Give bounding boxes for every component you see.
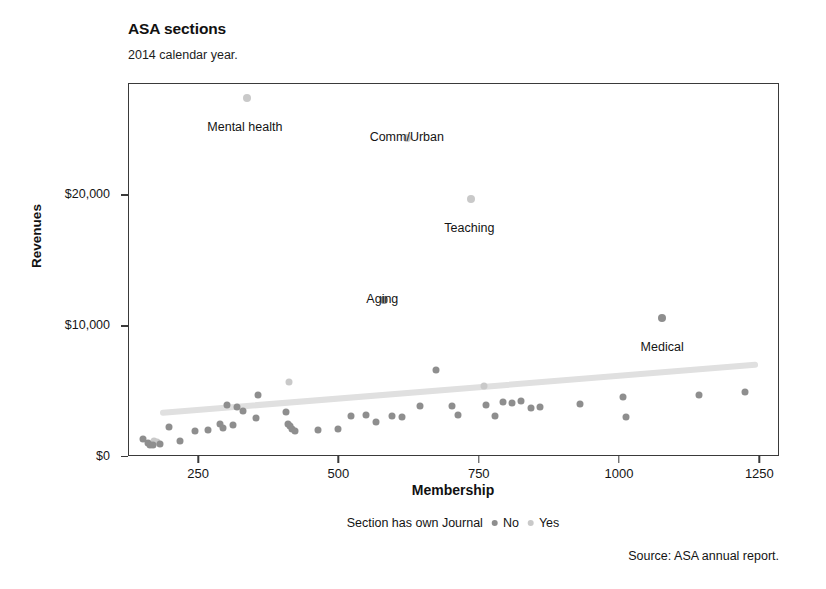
legend-item-no[interactable]: No bbox=[492, 516, 519, 530]
data-point bbox=[619, 393, 626, 400]
data-point bbox=[255, 392, 262, 399]
data-point bbox=[219, 424, 226, 431]
point-annotation: Mental health bbox=[207, 120, 282, 134]
chart-subtitle: 2014 calendar year. bbox=[128, 48, 238, 62]
x-tick-label: 1250 bbox=[745, 466, 774, 481]
data-point bbox=[622, 414, 629, 421]
plot-area: Mental healthComm/UrbanTeachingAgingMedi… bbox=[128, 83, 779, 456]
x-axis-label: Membership bbox=[412, 482, 494, 498]
y-tick-label: $20,000 bbox=[65, 187, 110, 201]
data-point bbox=[229, 421, 236, 428]
data-point bbox=[695, 392, 702, 399]
point-annotation: Aging bbox=[366, 292, 398, 306]
x-tick-mark bbox=[759, 456, 760, 463]
chart-figure: ASA sections 2014 calendar year. Revenue… bbox=[0, 0, 826, 589]
y-tick-mark bbox=[121, 325, 128, 326]
data-point bbox=[149, 442, 156, 449]
source-note: Source: ASA annual report. bbox=[628, 549, 779, 563]
data-point bbox=[483, 402, 490, 409]
legend-swatch-no-icon bbox=[492, 520, 498, 526]
point-annotation: Comm/Urban bbox=[370, 130, 444, 144]
data-point bbox=[291, 427, 298, 434]
plot-inner: Mental healthComm/UrbanTeachingAgingMedi… bbox=[129, 84, 778, 455]
x-tick-mark bbox=[618, 456, 619, 463]
point-annotation: Medical bbox=[641, 340, 684, 354]
data-point bbox=[373, 419, 380, 426]
data-point bbox=[315, 426, 322, 433]
data-point bbox=[528, 404, 535, 411]
data-point bbox=[156, 440, 163, 447]
data-point bbox=[741, 388, 748, 395]
page-title: ASA sections bbox=[128, 20, 226, 38]
legend: Section has own Journal No Yes bbox=[347, 516, 560, 530]
data-point bbox=[500, 399, 507, 406]
data-point bbox=[224, 402, 231, 409]
data-point bbox=[492, 412, 499, 419]
y-tick-mark bbox=[121, 456, 128, 457]
y-axis-label: Revenues bbox=[29, 204, 44, 268]
data-point bbox=[176, 437, 183, 444]
data-point bbox=[480, 383, 487, 390]
x-tick-mark bbox=[338, 456, 339, 463]
data-point bbox=[416, 402, 423, 409]
y-tick-mark bbox=[121, 194, 128, 195]
data-point bbox=[467, 195, 475, 203]
data-point bbox=[285, 378, 292, 385]
data-point bbox=[537, 404, 544, 411]
legend-label-yes: Yes bbox=[539, 516, 559, 530]
data-point bbox=[517, 397, 524, 404]
data-point bbox=[658, 314, 666, 322]
x-tick-mark bbox=[478, 456, 479, 463]
x-tick-label: 250 bbox=[187, 466, 209, 481]
x-tick-label: 750 bbox=[468, 466, 490, 481]
legend-label-no: No bbox=[503, 516, 519, 530]
data-point bbox=[455, 412, 462, 419]
data-point bbox=[448, 402, 455, 409]
data-point bbox=[347, 412, 354, 419]
point-annotation: Teaching bbox=[444, 221, 494, 235]
data-point bbox=[165, 423, 172, 430]
legend-title: Section has own Journal bbox=[347, 516, 483, 530]
y-tick-label: $0 bbox=[96, 449, 110, 463]
legend-swatch-yes-icon bbox=[528, 520, 534, 526]
data-point bbox=[334, 425, 341, 432]
y-tick-label: $10,000 bbox=[65, 318, 110, 332]
data-point bbox=[509, 400, 516, 407]
x-tick-mark bbox=[197, 456, 198, 463]
data-point bbox=[204, 427, 211, 434]
data-point bbox=[432, 366, 439, 373]
y-axis-ticks: $0$10,000$20,000 bbox=[52, 83, 122, 456]
data-point bbox=[399, 414, 406, 421]
data-point bbox=[243, 94, 251, 102]
legend-item-yes[interactable]: Yes bbox=[528, 516, 559, 530]
data-point bbox=[389, 412, 396, 419]
data-point bbox=[240, 408, 247, 415]
data-point bbox=[253, 415, 260, 422]
data-point bbox=[192, 428, 199, 435]
data-point bbox=[282, 408, 289, 415]
trend-line bbox=[160, 362, 758, 416]
data-point bbox=[363, 412, 370, 419]
data-point bbox=[140, 436, 147, 443]
x-tick-label: 1000 bbox=[605, 466, 634, 481]
data-point bbox=[576, 400, 583, 407]
x-tick-label: 500 bbox=[328, 466, 350, 481]
